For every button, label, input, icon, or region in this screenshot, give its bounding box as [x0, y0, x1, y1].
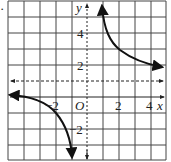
origin-label: O	[75, 98, 85, 113]
y-tick-label-4: 4	[77, 26, 84, 41]
right-branch-curve	[102, 6, 162, 67]
figure-marker: ·	[0, 1, 4, 16]
x-axis-label: x	[156, 98, 163, 113]
x-tick-label-4: 4	[146, 98, 153, 113]
left-branch-curve	[10, 95, 72, 157]
y-axis-label: y	[74, 0, 82, 15]
x-tick-label-2: 2	[115, 98, 122, 113]
hyperbola-graph: · y x O −2 2 4 4 2 −2	[0, 0, 171, 162]
y-tick-label-2: 2	[77, 58, 84, 73]
x-tick-label-neg2: −2	[45, 98, 59, 113]
y-tick-label-neg2: −2	[69, 122, 83, 137]
